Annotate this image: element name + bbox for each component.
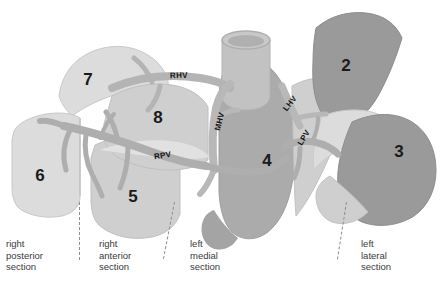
divider-right-posterior-anterior: [79, 202, 80, 260]
caption-right-anterior-section: right anterior section: [99, 238, 131, 273]
inferior-vena-cava: [222, 31, 270, 110]
mhv-lower-hook: [200, 170, 214, 194]
ivc-lumen: [228, 35, 264, 47]
ivc-tube: [222, 40, 270, 110]
segment-2-shape: [313, 13, 402, 125]
liver-segment-diagram: 7 6 5 8 4 2 3 RHV MHV RPV LHV LPV right …: [0, 0, 445, 285]
caption-right-posterior-section: right posterior section: [6, 238, 43, 273]
caption-left-medial-section: left medial section: [190, 238, 220, 273]
caption-left-lateral-section: left lateral section: [361, 238, 391, 273]
